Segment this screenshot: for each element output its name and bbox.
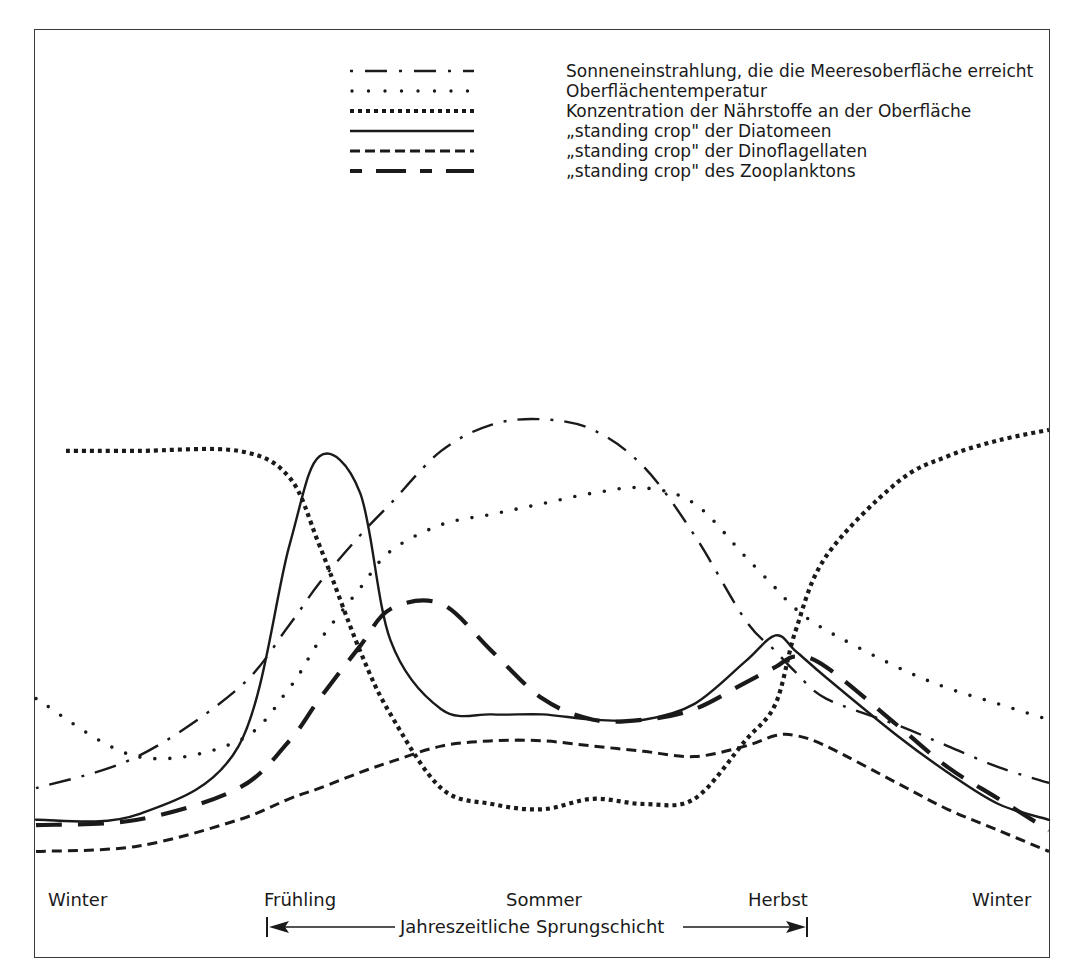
thermocline-label: Jahreszeitliche Sprungschicht: [400, 916, 664, 937]
series-line-dotted: [36, 487, 1049, 758]
long-dashed-line-icon: [350, 160, 474, 182]
series-line-dense-dotted: [66, 430, 1049, 810]
season-label-spring: Frühling: [264, 889, 336, 910]
season-label-winter-end: Winter: [972, 889, 1031, 910]
dotted-line-icon: [350, 80, 474, 102]
legend-label: „standing crop" der Dinoflagellaten: [566, 141, 867, 161]
dense-dotted-line-icon: [350, 100, 474, 122]
dash-dot-line-icon: [350, 60, 474, 82]
season-label-autumn: Herbst: [748, 889, 808, 910]
series-line-dash-dot: [36, 419, 1049, 788]
season-label-winter-start: Winter: [48, 889, 107, 910]
series-line-solid: [36, 454, 1049, 822]
solid-line-icon: [350, 120, 474, 142]
legend-label: Konzentration der Nährstoffe an der Ober…: [566, 101, 971, 121]
legend-item-temperature: Oberflächentemperatur: [350, 80, 1050, 102]
legend-item-dinoflagellates: „standing crop" der Dinoflagellaten: [350, 140, 1050, 162]
legend-label: „standing crop" der Diatomeen: [566, 121, 832, 141]
legend-item-zooplankton: „standing crop" des Zooplanktons: [350, 160, 1050, 182]
season-label-summer: Sommer: [506, 889, 582, 910]
legend-item-sunlight: Sonneneinstrahlung, die die Meeresoberfl…: [350, 60, 1050, 82]
curves-group: [36, 419, 1049, 852]
legend-label: Sonneneinstrahlung, die die Meeresoberfl…: [566, 61, 1033, 81]
legend-item-nutrients: Konzentration der Nährstoffe an der Ober…: [350, 100, 1050, 122]
short-dashed-line-icon: [350, 140, 474, 162]
legend-label: Oberflächentemperatur: [566, 81, 767, 101]
legend-label: „standing crop" des Zooplanktons: [566, 161, 856, 181]
legend-item-diatoms: „standing crop" der Diatomeen: [350, 120, 1050, 142]
